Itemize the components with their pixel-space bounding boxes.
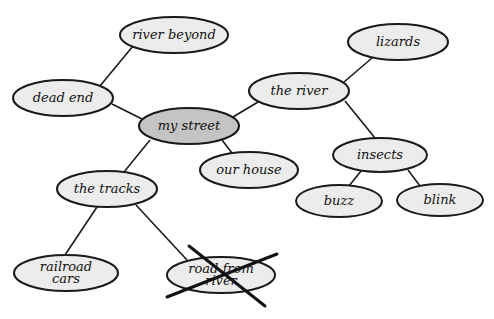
edge-my-street-the-tracks	[124, 140, 150, 172]
node-our-house: our house	[200, 152, 298, 188]
edge-the-tracks-road-from-river	[136, 205, 187, 260]
node-label: river beyond	[132, 27, 216, 42]
edge-my-street-our-house	[222, 140, 232, 153]
node-label: buzz	[324, 193, 355, 208]
node-label: cars	[52, 271, 80, 286]
concept-map: river beyonddead endmy streetthe riverli…	[0, 0, 494, 319]
node-dead-end: dead end	[13, 80, 113, 116]
node-lizards: lizards	[348, 24, 448, 60]
node-label: the tracks	[74, 181, 141, 196]
edge-insects-buzz	[349, 171, 361, 186]
node-label: our house	[216, 162, 282, 177]
node-label: my street	[158, 118, 221, 133]
node-the-tracks: the tracks	[57, 171, 157, 207]
edge-the-tracks-railroad-cars	[65, 207, 97, 255]
node-insects: insects	[333, 138, 427, 172]
node-my-street: my street	[139, 108, 239, 144]
node-buzz: buzz	[296, 185, 382, 217]
node-blink: blink	[397, 184, 483, 216]
node-label: the river	[270, 83, 328, 98]
edge-dead-end-my-street	[112, 104, 142, 119]
node-river-beyond: river beyond	[120, 17, 228, 53]
edge-the-river-lizards	[344, 58, 372, 82]
node-railroad-cars: railroadcars	[14, 255, 118, 291]
edge-insects-blink	[408, 170, 420, 186]
node-label: insects	[357, 147, 403, 162]
edge-river-beyond-dead-end	[100, 46, 133, 86]
node-label: dead end	[33, 90, 94, 105]
node-label: blink	[424, 192, 457, 207]
edge-my-street-the-river	[233, 102, 258, 117]
node-the-river: the river	[249, 73, 349, 109]
node-label: lizards	[376, 34, 420, 49]
edge-the-river-insects	[345, 101, 375, 138]
nodes-layer: river beyonddead endmy streetthe riverli…	[13, 17, 483, 293]
